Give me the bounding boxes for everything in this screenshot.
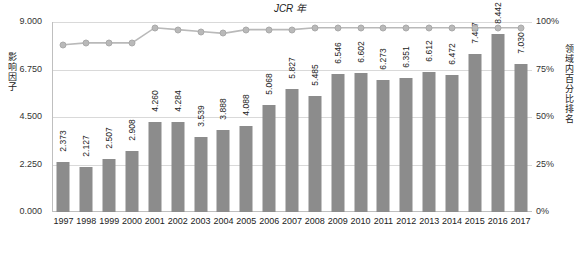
bar-column: 7.030 [509,22,532,212]
line-marker [471,24,478,31]
bar [125,151,138,212]
line-marker [517,24,524,31]
line-marker [151,24,158,31]
bar-column: 2.507 [98,22,121,212]
bar [171,122,184,212]
line-marker [357,24,364,31]
y-tick-right: 75% [536,64,570,74]
bar-value-label: 5.485 [310,65,320,86]
bar-column: 6.612 [418,22,441,212]
bar [514,64,527,212]
bar-value-label: 3.888 [218,98,228,119]
x-tick: 2017 [501,216,541,226]
bar-value-label: 5.827 [287,57,297,78]
line-marker [220,30,227,37]
bar [194,137,207,212]
line-marker [289,26,296,33]
bar [331,74,344,212]
bar-column: 2.127 [75,22,98,212]
y-tick-left: 0.000 [8,206,42,216]
line-marker [129,39,136,46]
y-tick-right: 25% [536,159,570,169]
y-tick-left: 9.000 [8,16,42,26]
bar-column: 6.602 [349,22,372,212]
bar-column: 6.546 [326,22,349,212]
bar [148,122,161,212]
bar-column: 7.487 [463,22,486,212]
bar-value-label: 3.539 [196,106,206,127]
line-marker [334,24,341,31]
bar [103,159,116,212]
line-marker [174,26,181,33]
bar-column: 6.273 [372,22,395,212]
line-marker [380,24,387,31]
line-marker [106,39,113,46]
y-tick-right: 50% [536,111,570,121]
bar [240,126,253,212]
bar-column: 4.260 [143,22,166,212]
bar-value-label: 4.260 [150,90,160,111]
bar-column: 5.827 [281,22,304,212]
bar [354,73,367,212]
bar-column: 2.908 [121,22,144,212]
bar [400,78,413,212]
bar [263,105,276,212]
chart-figure: 影响因子 领域内百分比排名 JCR 年 0.0002.2504.5006.750… [0,0,580,268]
y-tick-right: 0% [536,206,570,216]
bar-value-label: 2.127 [81,135,91,156]
bar [468,54,481,212]
bar [308,96,321,212]
y-tick-left: 6.750 [8,64,42,74]
bar-value-label: 6.546 [333,42,343,63]
line-marker [83,39,90,46]
line-marker [197,28,204,35]
bar-value-label: 6.351 [401,46,411,67]
bar-value-label: 8.442 [493,2,503,23]
y-tick-right: 100% [536,16,570,26]
line-marker [266,26,273,33]
y-tick-left: 2.250 [8,159,42,169]
bar-value-label: 5.068 [264,73,274,94]
bar-value-label: 7.030 [516,32,526,53]
bar-value-label: 4.284 [173,90,183,111]
line-marker [426,24,433,31]
bar-value-label: 6.612 [424,41,434,62]
bar [217,130,230,212]
bar-value-label: 4.088 [241,94,251,115]
bar-column: 5.485 [303,22,326,212]
bar-column: 6.351 [395,22,418,212]
line-marker [243,26,250,33]
bar-value-label: 6.472 [447,44,457,65]
bar-column: 3.888 [212,22,235,212]
line-marker [449,24,456,31]
bar-column: 2.373 [52,22,75,212]
line-marker [311,24,318,31]
line-marker [494,24,501,31]
bar-column: 3.539 [189,22,212,212]
bar [80,167,93,212]
line-marker [403,24,410,31]
plot-area: 2.3732.1272.5072.9084.2604.2843.5393.888… [52,22,532,212]
bar-column: 6.472 [441,22,464,212]
bar-column: 4.088 [235,22,258,212]
bar-value-label: 6.273 [378,48,388,69]
bar-value-label: 2.507 [104,127,114,148]
bar-column: 5.068 [258,22,281,212]
y-tick-left: 4.500 [8,111,42,121]
bar [285,89,298,212]
bar [423,72,436,212]
bar-column: 8.442 [486,22,509,212]
bar-value-label: 2.373 [58,130,68,151]
bar-column: 4.284 [166,22,189,212]
bar [491,34,504,212]
line-marker [60,41,67,48]
bar [377,80,390,212]
bar [445,75,458,212]
bar-value-label: 6.602 [356,41,366,62]
bar-value-label: 2.908 [127,119,137,140]
bar [57,162,70,212]
